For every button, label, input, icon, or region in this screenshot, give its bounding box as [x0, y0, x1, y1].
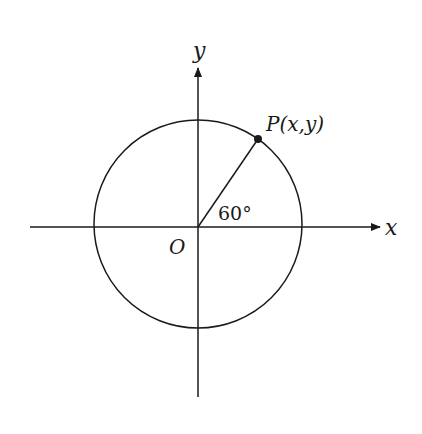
y-axis-label: y	[192, 38, 206, 63]
origin-label: O	[169, 235, 185, 259]
point-p-label: P(x,y)	[265, 112, 324, 136]
unit-circle-diagram: y x O P(x,y) 60°	[0, 0, 422, 434]
angle-label: 60°	[218, 202, 252, 224]
point-p-dot	[254, 135, 262, 143]
x-axis-label: x	[385, 215, 398, 240]
